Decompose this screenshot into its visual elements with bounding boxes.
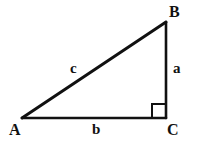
side-label-c: c <box>70 61 77 76</box>
vertex-label-b: B <box>169 4 180 20</box>
right-triangle-figure: B A C a b c <box>0 0 202 146</box>
side-c-hypotenuse-line <box>22 22 166 118</box>
vertex-label-a: A <box>9 122 21 138</box>
vertex-label-c: C <box>167 122 179 138</box>
side-label-a: a <box>173 61 181 76</box>
right-angle-marker <box>152 104 166 118</box>
side-label-b: b <box>92 122 100 137</box>
